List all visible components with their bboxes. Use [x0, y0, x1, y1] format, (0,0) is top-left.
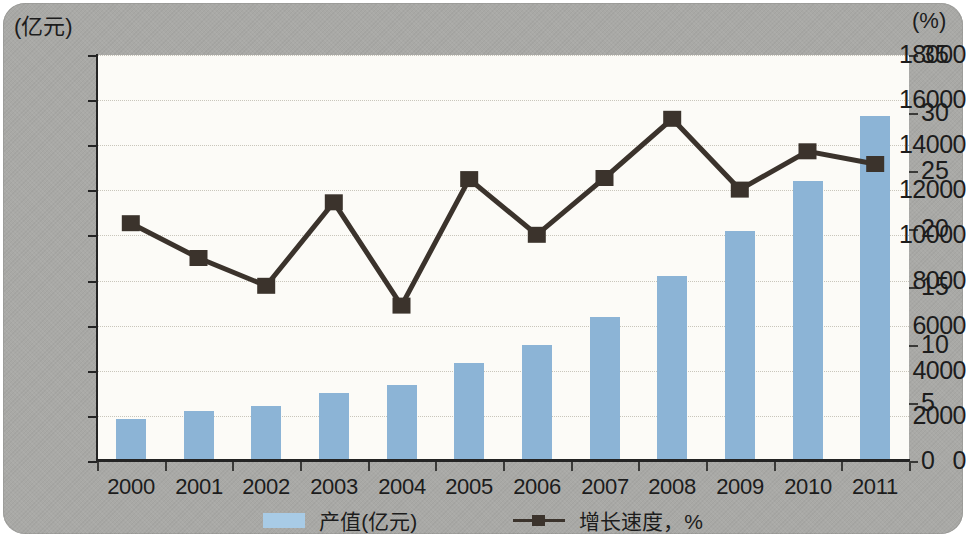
chart-figure: (亿元) (%) 0200040006000800010000120001400…	[0, 0, 966, 537]
y-axis-tick-label: 4000	[880, 356, 966, 385]
x-axis-tick	[368, 462, 370, 471]
y2-axis-tick	[909, 345, 918, 347]
line-marker	[731, 182, 749, 198]
line-marker	[393, 298, 411, 314]
x-axis-tick	[300, 462, 302, 471]
y2-axis-tick-label: 0	[921, 446, 965, 475]
line-marker	[596, 170, 614, 186]
y2-axis-tick-label: 25	[921, 156, 965, 185]
line-square-marker-icon	[513, 512, 565, 528]
x-axis-tick	[571, 462, 573, 471]
line-marker	[663, 111, 681, 127]
x-axis-tick	[503, 462, 505, 471]
x-axis-tick	[638, 462, 640, 471]
x-axis-tick	[841, 462, 843, 471]
y2-axis-tick-label: 35	[921, 40, 965, 69]
plot-inner	[97, 55, 909, 461]
legend-label-line-series: 增长速度，%	[579, 505, 703, 535]
line-marker	[528, 227, 546, 243]
x-axis-tick-label: 2011	[830, 474, 920, 500]
line-path	[131, 119, 875, 306]
line-marker	[799, 143, 817, 159]
x-axis-tick	[97, 462, 99, 471]
left-axis-unit-label: (亿元)	[14, 8, 73, 40]
legend-label-bar-series: 产值(亿元)	[319, 505, 417, 535]
y-axis-tick	[88, 145, 97, 147]
plot-area	[97, 55, 909, 461]
y-axis-tick-label: 14000	[880, 130, 966, 159]
x-axis-tick	[232, 462, 234, 471]
line-marker	[460, 171, 478, 187]
x-axis-tick	[435, 462, 437, 471]
line-marker	[122, 215, 140, 231]
y-axis-tick	[88, 281, 97, 283]
y-axis-tick	[88, 371, 97, 373]
chart-legend: 产值(亿元) 增长速度，%	[0, 505, 966, 535]
y2-axis-tick-label: 10	[921, 330, 965, 359]
y2-axis-tick-label: 15	[921, 272, 965, 301]
y-axis-tick	[88, 461, 97, 463]
y-axis-tick	[88, 326, 97, 328]
y2-axis-tick-label: 30	[921, 98, 965, 127]
line-series	[97, 55, 909, 461]
line-marker	[190, 250, 208, 266]
x-axis-tick	[706, 462, 708, 471]
right-axis-unit-label: (%)	[912, 8, 946, 34]
x-axis-tick	[774, 462, 776, 471]
y2-axis-tick	[909, 171, 918, 173]
y2-axis-tick-label: 5	[921, 388, 965, 417]
x-axis-tick	[165, 462, 167, 471]
y-axis-tick	[88, 100, 97, 102]
line-marker	[257, 278, 275, 294]
legend-item-bar-series: 产值(亿元)	[263, 505, 417, 535]
y-axis-line	[96, 54, 98, 462]
y-axis-tick	[88, 235, 97, 237]
y2-axis-tick-label: 20	[921, 214, 965, 243]
line-marker	[325, 194, 343, 210]
bar-swatch-icon	[263, 513, 305, 528]
legend-item-line-series: 增长速度，%	[513, 505, 703, 535]
y-axis-tick	[88, 416, 97, 418]
y-axis-tick	[88, 190, 97, 192]
y-axis-tick	[88, 55, 97, 57]
